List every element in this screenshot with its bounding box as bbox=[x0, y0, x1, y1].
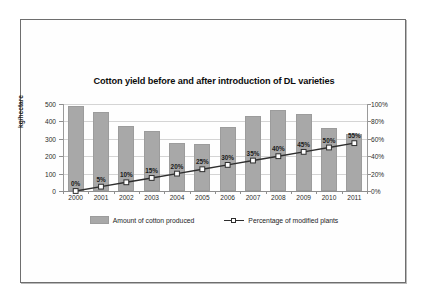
y-axis-label-left: kg/hectare bbox=[17, 95, 24, 128]
x-tick-label-2010: 2010 bbox=[322, 194, 337, 201]
x-tick-label-2006: 2006 bbox=[220, 194, 235, 201]
y-tick-label-right: 0% bbox=[371, 188, 405, 195]
data-label-2001: 5% bbox=[96, 176, 105, 183]
x-tick-label-2011: 2011 bbox=[347, 194, 361, 201]
data-label-2000: 0% bbox=[71, 180, 80, 187]
data-label-2003: 15% bbox=[145, 167, 158, 174]
y-tick-label-left: 200 bbox=[26, 153, 56, 160]
y-tick-label-right: 20% bbox=[371, 170, 405, 177]
x-tick-label-2004: 2004 bbox=[170, 194, 185, 201]
data-label-2004: 20% bbox=[171, 163, 184, 170]
screenshot-page: Cotton yield before and after introducti… bbox=[0, 0, 427, 305]
x-tick-label-2005: 2005 bbox=[195, 194, 210, 201]
legend-item-line: Percentage of modified plants bbox=[224, 217, 338, 224]
x-tick-label-2001: 2001 bbox=[94, 194, 109, 201]
y-tick-label-left: 400 bbox=[26, 118, 56, 125]
y-tick-label-left: 500 bbox=[26, 101, 56, 108]
legend-bar-swatch-icon bbox=[90, 216, 109, 224]
x-tickmark bbox=[367, 191, 368, 194]
data-label-2007: 35% bbox=[247, 150, 260, 157]
y-tick-label-right: 80% bbox=[371, 118, 405, 125]
x-tick-label-2008: 2008 bbox=[271, 194, 286, 201]
data-label-2010: 50% bbox=[323, 137, 336, 144]
data-label-2002: 10% bbox=[120, 171, 133, 178]
legend-item-bar: Amount of cotton produced bbox=[90, 216, 195, 224]
chart-legend: Amount of cotton produced Percentage of … bbox=[21, 216, 407, 224]
x-tick-label-2000: 2000 bbox=[68, 194, 83, 201]
data-label-2011: 55% bbox=[348, 132, 361, 139]
x-tick-label-2003: 2003 bbox=[144, 194, 159, 201]
y-axis-line-right bbox=[367, 104, 368, 192]
legend-bar-label: Amount of cotton produced bbox=[113, 217, 195, 224]
y-tick-label-right: 40% bbox=[371, 153, 405, 160]
line-data-labels: 0%5%10%15%20%25%30%35%40%45%50%55% bbox=[63, 104, 367, 191]
y-tick-label-left: 300 bbox=[26, 135, 56, 142]
x-tick-label-2007: 2007 bbox=[246, 194, 261, 201]
y-tick-label-left: 0 bbox=[26, 188, 56, 195]
x-axis-labels: 2000200120022003200420052006200720082009… bbox=[63, 194, 367, 206]
legend-line-label: Percentage of modified plants bbox=[248, 217, 338, 224]
data-label-2006: 30% bbox=[221, 154, 234, 161]
data-label-2009: 45% bbox=[297, 141, 310, 148]
data-label-2008: 40% bbox=[272, 145, 285, 152]
y-tick-label-left: 100 bbox=[26, 170, 56, 177]
y-tick-label-right: 100% bbox=[371, 101, 405, 108]
x-tick-label-2009: 2009 bbox=[296, 194, 311, 201]
x-tick-label-2002: 2002 bbox=[119, 194, 134, 201]
data-label-2005: 25% bbox=[196, 158, 209, 165]
chart-title: Cotton yield before and after introducti… bbox=[21, 76, 407, 86]
chart-frame: Cotton yield before and after introducti… bbox=[20, 19, 406, 283]
legend-line-swatch-icon bbox=[224, 217, 244, 224]
y-tick-label-right: 60% bbox=[371, 135, 405, 142]
